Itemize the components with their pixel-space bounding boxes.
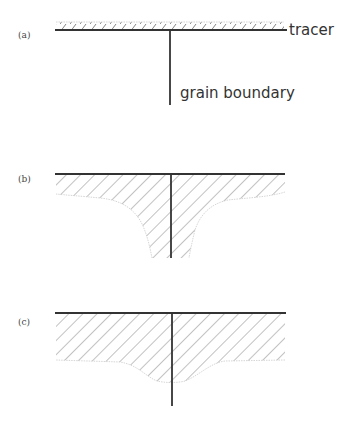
panel-a-label: (a) [18,30,30,40]
grain-boundary-diffusion-diagram: (a) tracer grain boundary (b) (c) [0,0,353,431]
panel-b: (b) [18,174,285,258]
diffusion-region-c [56,313,285,383]
panel-c: (c) [18,313,286,406]
tracer-layer [56,22,284,29]
tracer-label: tracer [289,21,335,39]
grain-boundary-label: grain boundary [180,84,295,102]
panel-b-label: (b) [18,174,31,184]
panel-c-label: (c) [18,317,30,327]
panel-a: (a) tracer grain boundary [18,21,335,105]
